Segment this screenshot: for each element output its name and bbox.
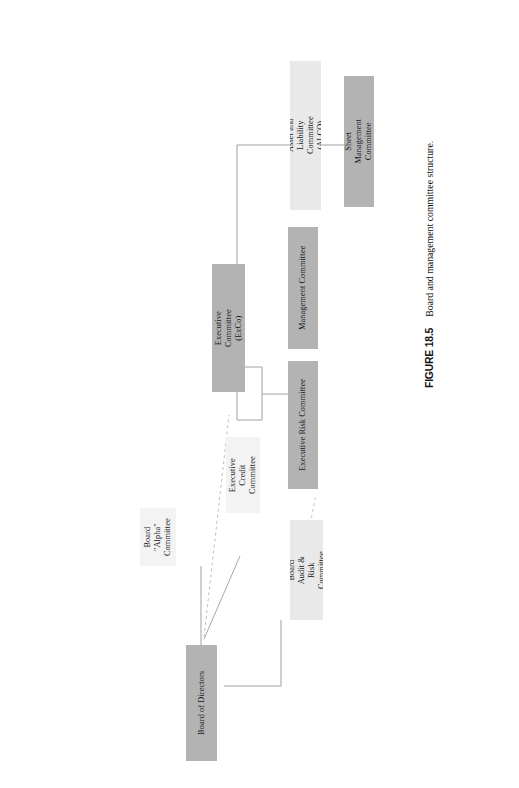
node-alco[interactable]: Asset and Liability Committee (ALCO): [290, 61, 321, 210]
edge-bod-to-audit-risk: [224, 620, 281, 686]
node-bsmco[interactable]: Balance Sheet Management Committee (BSMC…: [344, 76, 374, 207]
node-executive-credit-committee-label: Executive Credit Committee: [228, 456, 258, 494]
node-executive-committee-exco[interactable]: Executive Committee (ExCo): [212, 264, 245, 392]
node-management-committee-label: Management Committee: [298, 246, 308, 330]
figure-caption-text: Board and management committee structure…: [424, 141, 435, 317]
node-board-alpha-committee[interactable]: Board "Alpha" Committee: [140, 508, 176, 566]
node-board-of-directors-label: Board of Directors: [197, 671, 207, 735]
node-executive-committee-exco-label: Executive Committee (ExCo): [213, 309, 243, 347]
node-management-committee[interactable]: Management Committee: [288, 227, 318, 349]
node-board-alpha-committee-label: Board "Alpha" Committee: [143, 518, 173, 556]
figure-caption-label: FIGURE 18.5: [424, 328, 435, 388]
connector-lines: [0, 0, 519, 788]
figure-caption: FIGURE 18.5Board and management committe…: [424, 8, 435, 388]
node-board-audit-risk-committee-label: Board Audit & Risk Committee: [290, 551, 323, 589]
node-executive-credit-committee[interactable]: Executive Credit Committee: [226, 437, 260, 513]
node-board-of-directors[interactable]: Board of Directors: [186, 645, 217, 761]
edge-bod-to-exec-credit: [204, 556, 240, 639]
node-executive-risk-committee-label: Executive Risk Committee: [298, 379, 308, 471]
node-board-audit-risk-committee[interactable]: Board Audit & Risk Committee: [290, 520, 323, 620]
node-bsmco-label: Balance Sheet Management Committee (BSMC…: [344, 119, 374, 163]
figure-canvas: Board of Directors Board "Alpha" Committ…: [0, 0, 519, 788]
node-executive-risk-committee[interactable]: Executive Risk Committee: [288, 361, 318, 489]
node-alco-label: Asset and Liability Committee (ALCO): [290, 117, 321, 155]
